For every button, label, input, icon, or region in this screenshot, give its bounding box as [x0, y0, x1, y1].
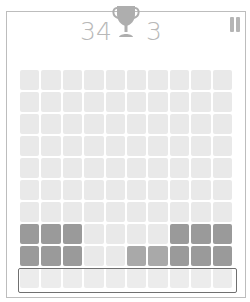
- board-cell[interactable]: [191, 70, 210, 90]
- board-cell[interactable]: [127, 136, 146, 156]
- board-cell[interactable]: [127, 92, 146, 112]
- board-cell[interactable]: [127, 114, 146, 134]
- board-cell[interactable]: [41, 92, 60, 112]
- board-cell[interactable]: [41, 246, 60, 266]
- board-cell[interactable]: [106, 268, 125, 288]
- board-cell[interactable]: [191, 92, 210, 112]
- board-cell[interactable]: [127, 180, 146, 200]
- board-cell[interactable]: [20, 202, 39, 222]
- board-cell[interactable]: [63, 136, 82, 156]
- board-cell[interactable]: [41, 224, 60, 244]
- pause-button[interactable]: [230, 17, 241, 32]
- board-cell[interactable]: [63, 246, 82, 266]
- game-board[interactable]: [20, 70, 234, 288]
- board-cell[interactable]: [191, 246, 210, 266]
- board-cell[interactable]: [84, 92, 103, 112]
- board-cell[interactable]: [63, 158, 82, 178]
- board-cell[interactable]: [63, 92, 82, 112]
- board-cell[interactable]: [148, 268, 167, 288]
- board-cell[interactable]: [170, 92, 189, 112]
- board-cell[interactable]: [148, 136, 167, 156]
- board-cell[interactable]: [20, 268, 39, 288]
- board-cell[interactable]: [106, 224, 125, 244]
- board-cell[interactable]: [41, 202, 60, 222]
- board-cell[interactable]: [63, 70, 82, 90]
- board-cell[interactable]: [191, 180, 210, 200]
- board-cell[interactable]: [213, 70, 232, 90]
- board-cell[interactable]: [41, 136, 60, 156]
- board-cell[interactable]: [84, 224, 103, 244]
- board-cell[interactable]: [63, 268, 82, 288]
- board-cell[interactable]: [127, 202, 146, 222]
- board-cell[interactable]: [191, 202, 210, 222]
- board-cell[interactable]: [84, 268, 103, 288]
- board-cell[interactable]: [106, 180, 125, 200]
- board-cell[interactable]: [170, 224, 189, 244]
- board-cell[interactable]: [106, 114, 125, 134]
- board-cell[interactable]: [127, 246, 146, 266]
- board-cell[interactable]: [191, 224, 210, 244]
- board-cell[interactable]: [191, 136, 210, 156]
- board-cell[interactable]: [20, 158, 39, 178]
- board-cell[interactable]: [170, 180, 189, 200]
- board-cell[interactable]: [148, 246, 167, 266]
- board-cell[interactable]: [20, 224, 39, 244]
- board-cell[interactable]: [148, 224, 167, 244]
- board-cell[interactable]: [191, 158, 210, 178]
- board-cell[interactable]: [41, 268, 60, 288]
- board-cell[interactable]: [213, 268, 232, 288]
- board-cell[interactable]: [41, 158, 60, 178]
- board-cell[interactable]: [213, 246, 232, 266]
- board-cell[interactable]: [170, 158, 189, 178]
- board-cell[interactable]: [170, 70, 189, 90]
- board-cell[interactable]: [213, 202, 232, 222]
- board-cell[interactable]: [84, 158, 103, 178]
- board-cell[interactable]: [213, 224, 232, 244]
- board-cell[interactable]: [41, 180, 60, 200]
- board-cell[interactable]: [148, 114, 167, 134]
- board-cell[interactable]: [127, 70, 146, 90]
- board-cell[interactable]: [63, 224, 82, 244]
- board-cell[interactable]: [127, 224, 146, 244]
- board-cell[interactable]: [20, 136, 39, 156]
- board-cell[interactable]: [41, 70, 60, 90]
- board-cell[interactable]: [213, 114, 232, 134]
- board-cell[interactable]: [20, 114, 39, 134]
- board-cell[interactable]: [148, 158, 167, 178]
- board-cell[interactable]: [106, 136, 125, 156]
- board-cell[interactable]: [106, 202, 125, 222]
- board-cell[interactable]: [63, 180, 82, 200]
- board-cell[interactable]: [106, 246, 125, 266]
- board-cell[interactable]: [106, 92, 125, 112]
- board-cell[interactable]: [106, 158, 125, 178]
- board-cell[interactable]: [84, 136, 103, 156]
- board-cell[interactable]: [20, 246, 39, 266]
- board-cell[interactable]: [41, 114, 60, 134]
- board-cell[interactable]: [84, 202, 103, 222]
- board-cell[interactable]: [127, 268, 146, 288]
- board-cell[interactable]: [20, 180, 39, 200]
- board-cell[interactable]: [63, 114, 82, 134]
- board-cell[interactable]: [213, 158, 232, 178]
- board-cell[interactable]: [84, 114, 103, 134]
- board-cell[interactable]: [213, 180, 232, 200]
- board-cell[interactable]: [63, 202, 82, 222]
- board-cell[interactable]: [148, 92, 167, 112]
- board-cell[interactable]: [20, 92, 39, 112]
- board-cell[interactable]: [191, 268, 210, 288]
- board-cell[interactable]: [170, 202, 189, 222]
- board-cell[interactable]: [106, 70, 125, 90]
- board-cell[interactable]: [148, 70, 167, 90]
- board-cell[interactable]: [170, 246, 189, 266]
- board-cell[interactable]: [148, 202, 167, 222]
- board-cell[interactable]: [148, 180, 167, 200]
- board-cell[interactable]: [170, 268, 189, 288]
- board-cell[interactable]: [191, 114, 210, 134]
- board-cell[interactable]: [84, 180, 103, 200]
- board-cell[interactable]: [213, 92, 232, 112]
- board-cell[interactable]: [20, 70, 39, 90]
- board-cell[interactable]: [170, 136, 189, 156]
- board-cell[interactable]: [127, 158, 146, 178]
- board-cell[interactable]: [213, 136, 232, 156]
- board-cell[interactable]: [170, 114, 189, 134]
